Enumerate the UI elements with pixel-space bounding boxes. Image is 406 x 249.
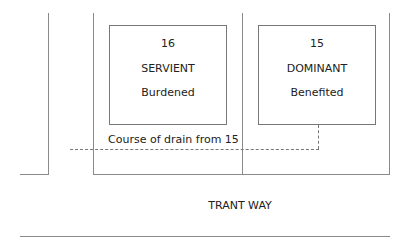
drain-vertical-segment (318, 125, 319, 149)
drain-horizontal-segment (70, 149, 319, 150)
plot-15-right-line (389, 13, 390, 175)
plot-16-number: 16 (109, 37, 227, 50)
plot-16-left-line (93, 13, 94, 175)
road-label: TRANT WAY (190, 199, 290, 212)
left-boundary-line (48, 13, 49, 175)
left-boundary-foot (20, 174, 49, 175)
plot-16-type: SERVIENT (109, 62, 227, 75)
road-far-edge (20, 236, 390, 237)
plot-15-number: 15 (258, 37, 376, 50)
plot-16-status: Burdened (109, 86, 227, 99)
plot-divider-line (242, 13, 243, 175)
plot-15-status: Benefited (258, 86, 376, 99)
plot-15-type: DOMINANT (258, 62, 376, 75)
drain-label: Course of drain from 15 (108, 133, 239, 146)
